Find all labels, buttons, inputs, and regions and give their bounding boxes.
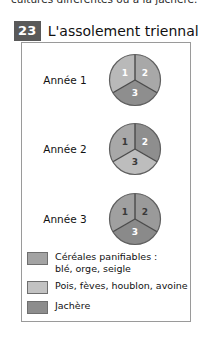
year-row: Année 3 1 2 3 (22, 188, 192, 250)
legend-label: Céréales panifiables : blé, orge, seigle (55, 251, 157, 274)
legend-label: Pois, fèves, houblon, avoine (55, 280, 188, 292)
pie-wedge-label-3: 3 (132, 227, 138, 237)
running-body-text: cultures différentes ou à la jachère. (11, 0, 201, 6)
figure-header: 23 L'assolement triennal (14, 21, 199, 41)
pie-wedge-label-3: 3 (132, 157, 138, 167)
legend-label-line1: Pois, fèves, houblon, avoine (55, 280, 188, 291)
year-label: Année 3 (22, 213, 108, 225)
legend-label-line2: blé, orge, seigle (55, 263, 157, 275)
pie-wedge-label-2: 2 (142, 207, 148, 217)
figure-number-badge: 23 (14, 21, 41, 41)
legend-item: Céréales panifiables : blé, orge, seigle (27, 251, 191, 274)
legend: Céréales panifiables : blé, orge, seigle… (27, 251, 191, 320)
pie-chart-annee-3: 1 2 3 (108, 192, 162, 246)
year-label: Année 1 (22, 74, 108, 86)
legend-swatch-cereales (27, 252, 48, 265)
pie-wedge-label-1: 1 (122, 207, 128, 217)
pie-svg: 1 2 3 (108, 192, 162, 246)
legend-label-line1: Céréales panifiables : (55, 251, 157, 262)
pie-wedge-label-1: 1 (122, 137, 128, 147)
pie-svg: 1 2 3 (108, 122, 162, 176)
legend-swatch-pois (27, 281, 48, 294)
pie-wedge-label-1: 1 (122, 68, 128, 78)
pie-chart-annee-1: 1 2 3 (108, 53, 162, 107)
pie-wedge-label-3: 3 (132, 88, 138, 98)
pie-wedge-label-2: 2 (142, 68, 148, 78)
legend-item: Pois, fèves, houblon, avoine (27, 280, 191, 294)
legend-label: Jachère (55, 300, 90, 312)
year-label: Année 2 (22, 143, 108, 155)
figure-panel: Année 1 1 2 3 Année 2 (21, 42, 191, 322)
pie-wedge-label-2: 2 (142, 137, 148, 147)
legend-item: Jachère (27, 300, 191, 314)
year-row: Année 1 1 2 3 (22, 49, 192, 111)
legend-swatch-jachere (27, 301, 48, 314)
pie-chart-annee-2: 1 2 3 (108, 122, 162, 176)
legend-label-line1: Jachère (55, 300, 90, 311)
year-row: Année 2 1 2 3 (22, 118, 192, 180)
figure-title: L'assolement triennal (48, 24, 199, 38)
pie-svg: 1 2 3 (108, 53, 162, 107)
